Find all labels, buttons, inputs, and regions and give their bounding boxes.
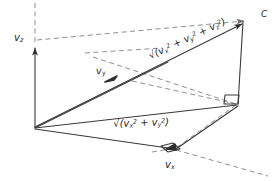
diagram-svg	[0, 0, 276, 181]
dashed-base-diagonal-extension	[176, 150, 268, 176]
close-2d: )	[165, 116, 169, 127]
label-magnitude-2d: √(vx2 + vy2)	[113, 117, 169, 130]
label-vz-subscript: z	[20, 36, 23, 43]
label-vy: vy	[95, 66, 106, 78]
vector-diagram-canvas: vz vy vx C √(vx2 + vy2 + vz2) √(vx2 + vy…	[0, 0, 276, 181]
vertical-segment-to-c	[238, 22, 243, 104]
label-vy-subscript: y	[102, 69, 106, 76]
x-axis-edge	[35, 129, 175, 149]
vy-arrowhead	[105, 76, 117, 82]
label-vx-subscript: x	[171, 163, 175, 170]
edge-vx-to-c-base	[176, 106, 238, 149]
dashed-projection-from-crossing	[132, 81, 236, 104]
label-vx: vx	[165, 160, 175, 171]
radical-2d: √(	[113, 118, 124, 129]
op-2d-1: +	[137, 117, 152, 129]
label-vz: vz	[14, 33, 23, 44]
solid-structure-lines	[35, 22, 243, 152]
diagonal-3d-vector	[35, 24, 242, 127]
label-point-c: C	[261, 10, 267, 19]
